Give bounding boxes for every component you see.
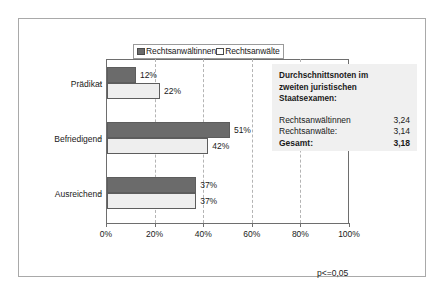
info-value-rechtsanwaeltinnen: 3,24 xyxy=(393,115,410,127)
info-box-title-line-1: Durchschnittsnoten im xyxy=(279,70,410,82)
info-label-rechtsanwaelte: Rechtsanwälte: xyxy=(279,126,337,138)
bar-group-ausreichend: 37% 37% xyxy=(107,176,348,210)
y-axis-tick-2 xyxy=(98,193,102,194)
bar-value-ausreichend-rechtsanwaeltinnen: 37% xyxy=(200,180,217,190)
bar-befriedigend-rechtsanwaelte xyxy=(107,138,208,154)
y-axis-tick-0 xyxy=(98,83,102,84)
plot-top-border xyxy=(107,59,348,60)
bar-value-befriedigend-rechtsanwaeltinnen: 51% xyxy=(234,125,251,135)
info-box-rows: Rechtsanwältinnen 3,24 Rechtsanwälte: 3,… xyxy=(279,115,410,150)
bar-row-ausreichend-rechtsanwaelte: 37% xyxy=(107,193,348,209)
bar-row-ausreichend-rechtsanwaeltinnen: 37% xyxy=(107,177,348,193)
x-axis-tick-100 xyxy=(349,223,350,227)
bar-befriedigend-rechtsanwaeltinnen xyxy=(107,122,230,138)
x-axis-tick-20 xyxy=(155,223,156,227)
bar-ausreichend-rechtsanwaelte xyxy=(107,193,196,209)
info-label-gesamt: Gesamt: xyxy=(279,138,313,150)
legend-label-rechtsanwaelte: Rechtsanwälte xyxy=(225,47,279,56)
legend-label-rechtsanwaeltinnen: Rechtsanwältinnen xyxy=(146,47,216,56)
bar-praedikat-rechtsanwaeltinnen xyxy=(107,67,136,83)
legend-item-rechtsanwaelte: Rechtsanwälte xyxy=(216,47,279,56)
legend-swatch-light-icon xyxy=(216,48,224,55)
x-axis-ticklabel-80: 80% xyxy=(292,229,309,239)
info-row-rechtsanwaelte: Rechtsanwälte: 3,14 xyxy=(279,126,410,138)
info-box-title-line-2: zweiten juristischen xyxy=(279,82,410,94)
x-axis-ticklabel-60: 60% xyxy=(243,229,260,239)
chart-legend: Rechtsanwältinnen Rechtsanwälte xyxy=(133,44,284,59)
x-axis-tick-labels: 0% 20% 40% 60% 80% 100% xyxy=(106,227,349,241)
x-axis-ticklabel-40: 40% xyxy=(195,229,212,239)
bar-value-befriedigend-rechtsanwaelte: 42% xyxy=(212,141,229,151)
legend-item-rechtsanwaeltinnen: Rechtsanwältinnen xyxy=(137,47,216,56)
info-row-rechtsanwaeltinnen: Rechtsanwältinnen 3,24 xyxy=(279,115,410,127)
chart-figure-frame: Rechtsanwältinnen Rechtsanwälte Prädikat… xyxy=(18,18,426,277)
x-axis-tick-60 xyxy=(252,223,253,227)
info-value-rechtsanwaelte: 3,14 xyxy=(393,126,410,138)
info-box-annotation: Durchschnittsnoten im zweiten juristisch… xyxy=(272,64,417,151)
info-box-title-line-3: Staatsexamen: xyxy=(279,93,410,105)
y-axis-label-praedikat: Prädikat xyxy=(71,79,102,89)
x-axis-line xyxy=(106,223,349,224)
bar-value-ausreichend-rechtsanwaelte: 37% xyxy=(200,196,217,206)
significance-footnote: p<=0,05 xyxy=(317,268,348,278)
x-axis-ticklabel-100: 100% xyxy=(338,229,360,239)
y-axis-label-ausreichend: Ausreichend xyxy=(55,189,102,199)
info-box-title: Durchschnittsnoten im zweiten juristisch… xyxy=(279,70,410,105)
y-axis-tick-1 xyxy=(98,138,102,139)
info-row-gesamt: Gesamt: 3,18 xyxy=(279,138,410,150)
x-axis-tick-80 xyxy=(300,223,301,227)
info-label-rechtsanwaeltinnen: Rechtsanwältinnen xyxy=(279,115,351,127)
bar-ausreichend-rechtsanwaeltinnen xyxy=(107,177,196,193)
info-value-gesamt: 3,18 xyxy=(393,138,410,150)
x-axis-tick-40 xyxy=(203,223,204,227)
bar-praedikat-rechtsanwaelte xyxy=(107,83,160,99)
legend-swatch-dark-icon xyxy=(137,48,145,55)
y-axis-label-befriedigend: Befriedigend xyxy=(54,134,102,144)
x-axis-tick-0 xyxy=(106,223,107,227)
bar-value-praedikat-rechtsanwaelte: 22% xyxy=(164,86,181,96)
x-axis-ticklabel-0: 0% xyxy=(100,229,112,239)
bar-value-praedikat-rechtsanwaeltinnen: 12% xyxy=(140,70,157,80)
x-axis-ticklabel-20: 20% xyxy=(146,229,163,239)
y-axis-category-labels: Prädikat Befriedigend Ausreichend xyxy=(19,59,102,223)
